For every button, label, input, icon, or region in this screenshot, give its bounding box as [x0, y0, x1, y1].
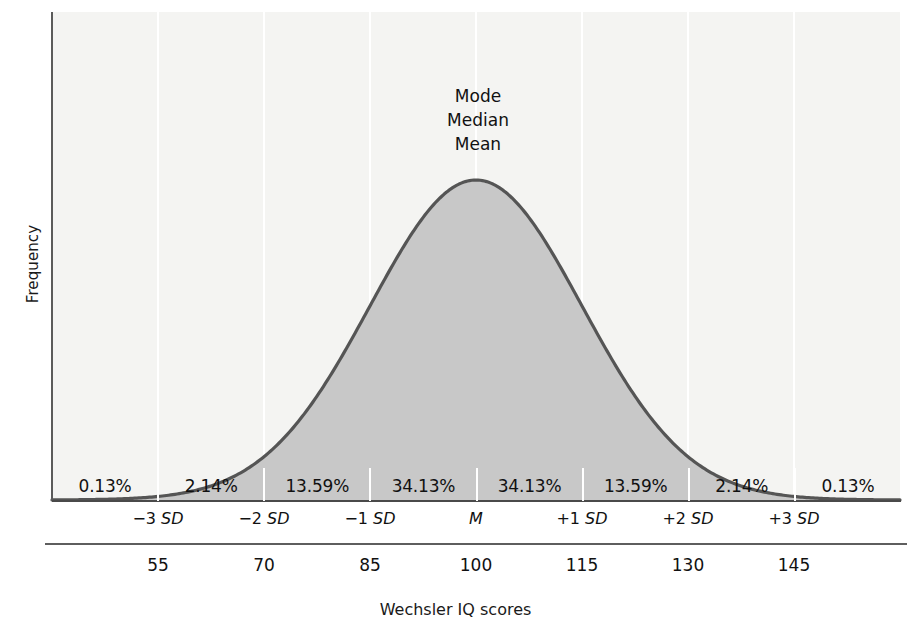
curve-area-fill	[52, 180, 900, 500]
percent-band-cell: 34.13%	[370, 470, 476, 501]
percent-band-cell: 13.59%	[583, 470, 689, 501]
sd-row-separator	[45, 543, 907, 545]
sd-tick-label: +1 SD	[522, 509, 642, 528]
iq-tick-label: 70	[214, 555, 314, 575]
sd-tick-label: −1 SD	[310, 509, 430, 528]
percent-band-cell: 2.14%	[689, 470, 795, 501]
center-annotation-line: Mode	[447, 84, 509, 108]
sd-tick-label: −3 SD	[98, 509, 218, 528]
x-axis-title: Wechsler IQ scores	[0, 600, 911, 619]
percent-band-cell: 2.14%	[158, 470, 264, 501]
sd-tick-label: M	[416, 509, 536, 528]
sd-tick-label: +3 SD	[734, 509, 854, 528]
sd-tick-label: +2 SD	[628, 509, 748, 528]
y-axis-line	[51, 12, 53, 501]
iq-tick-label: 145	[744, 555, 844, 575]
sd-tick-row: −3 SD−2 SD−1 SDM+1 SD+2 SD+3 SD	[52, 509, 901, 539]
iq-tick-label: 55	[108, 555, 208, 575]
figure-bottom-margin	[0, 630, 911, 639]
sd-tick-label: −2 SD	[204, 509, 324, 528]
percentage-band: 0.13%2.14%13.59%34.13%34.13%13.59%2.14%0…	[52, 470, 901, 501]
percent-band-cell: 34.13%	[477, 470, 583, 501]
center-annotation: ModeMedianMean	[447, 84, 509, 156]
percent-band-cell: 13.59%	[264, 470, 370, 501]
percent-band-cell: 0.13%	[52, 470, 158, 501]
percent-band-cell: 0.13%	[795, 470, 901, 501]
iq-tick-label: 130	[638, 555, 738, 575]
iq-tick-label: 115	[532, 555, 632, 575]
iq-tick-label: 100	[426, 555, 526, 575]
y-axis-title: Frequency	[24, 184, 42, 344]
center-annotation-line: Mean	[447, 132, 509, 156]
normal-distribution-figure: Frequency ModeMedianMean 0.13%2.14%13.59…	[0, 0, 911, 639]
iq-tick-label: 85	[320, 555, 420, 575]
iq-tick-row: 557085100115130145	[52, 555, 901, 583]
center-annotation-line: Median	[447, 108, 509, 132]
